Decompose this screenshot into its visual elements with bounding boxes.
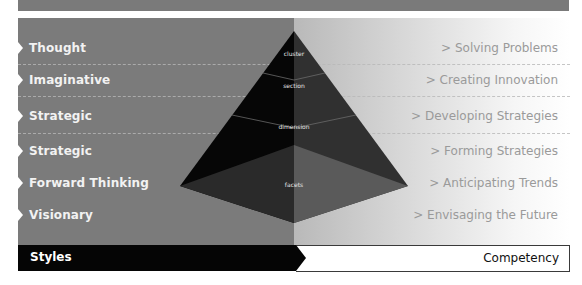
style-row: Visionary [18,205,93,225]
pyramid-level-section: section [283,82,305,89]
competency-label: > Forming Strategies [430,141,558,161]
chevron-right-icon [18,177,23,189]
style-row: Imaginative [18,70,110,90]
competency-footer-label: Competency [483,251,559,265]
top-bar [18,0,569,11]
competency-label: > Creating Innovation [426,70,558,90]
pyramid-level-facets: facets [285,181,303,188]
style-label: Strategic [29,144,92,158]
competency-label: > Solving Problems [441,38,558,58]
chevron-right-icon [18,209,23,221]
styles-footer-label: Styles [30,250,72,264]
chevron-right-icon [18,110,23,122]
style-label: Strategic [29,109,92,123]
pyramid-level-dimension: dimension [278,123,309,130]
competency-label: > Developing Strategies [411,106,558,126]
style-label: Imaginative [29,73,110,87]
competency-footer: Competency [296,245,570,272]
style-label: Visionary [29,208,93,222]
style-label: Forward Thinking [29,176,149,190]
competency-label: > Envisaging the Future [413,205,558,225]
chevron-right-icon [18,42,23,54]
chevron-right-icon [18,145,23,157]
arrow-right-icon [296,245,306,271]
pyramid-level-cluster: cluster [284,50,304,57]
style-row: Thought [18,38,86,58]
styles-footer: Styles [18,245,296,271]
competency-label: > Anticipating Trends [429,173,558,193]
style-row: Strategic [18,106,92,126]
style-row: Strategic [18,141,92,161]
style-row: Forward Thinking [18,173,149,193]
diagram-panel: cluster section dimension facets Thought… [18,18,570,245]
chevron-right-icon [18,74,23,86]
style-label: Thought [29,41,86,55]
